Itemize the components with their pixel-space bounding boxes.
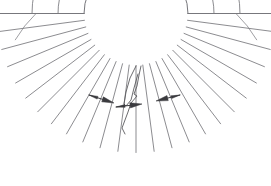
radial-divider-1 [0, 20, 84, 31]
center-flow-arrow-tail [116, 105, 125, 108]
left-flow-arrow-tail [89, 95, 98, 99]
diagram-canvas [0, 0, 271, 186]
radial-divider-11 [118, 65, 129, 151]
concentric-arc-group [15, 0, 256, 40]
radial-divider-14 [149, 64, 172, 148]
annotation-group [89, 66, 180, 134]
center-flow-arrow [116, 103, 142, 108]
radial-divider-10 [100, 64, 123, 148]
concentric-arc-r104 [32, 0, 240, 14]
outer-boundary-group [0, 0, 271, 14]
concentric-arc-r78 [58, 0, 214, 14]
right-flow-arrow [156, 95, 180, 101]
sector-diagram-svg [0, 0, 271, 186]
radial-divider-23 [188, 20, 271, 31]
radial-divider-13 [143, 65, 154, 151]
radial-divider-6 [38, 50, 100, 112]
right-flow-arrow-tail [171, 95, 180, 99]
radial-divider-2 [2, 27, 86, 50]
radial-divider-22 [186, 27, 270, 50]
outer-arc [0, 0, 271, 14]
left-flow-arrow-head [102, 97, 114, 103]
radial-divider-3 [8, 33, 88, 66]
radial-divider-21 [184, 33, 264, 66]
radial-divider-18 [173, 50, 235, 112]
inner-arc [84, 0, 188, 14]
radial-divider-15 [156, 62, 189, 142]
